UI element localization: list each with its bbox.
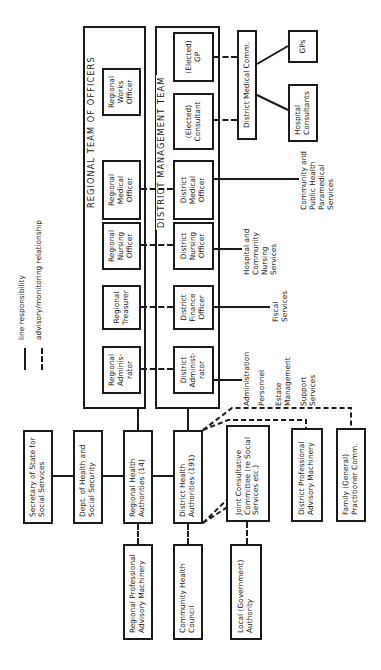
service-support-services-text: Support Services <box>299 375 317 406</box>
nursing-regional-district-link <box>141 244 173 246</box>
fiscal-service-stem <box>214 306 270 308</box>
dha-district-team-link <box>187 409 189 430</box>
legend-solid-line <box>24 348 26 370</box>
regional-nursing-officer-label: Regional Nursing Officer <box>108 226 135 266</box>
hospital-consultants-box: Hospital Consultants <box>288 84 318 142</box>
secretary-of-state-label: Secretary of State for Social Services <box>29 434 47 517</box>
joint-consultative-committee-box: Joint Consultative Committee (re Social … <box>226 425 270 522</box>
dhss-box: Dept. of Health and Social Security <box>73 430 103 524</box>
service-nursing-text: Hospital and Community Nursing Services <box>242 229 278 275</box>
district-health-authorities-label: District Health Authorities (191) <box>179 434 197 517</box>
service-support-services: Support Services <box>300 366 318 406</box>
service-fiscal-text: Fiscal Services <box>271 291 289 322</box>
regional-nursing-officer-box: Regional Nursing Officer <box>102 222 141 270</box>
district-administrator-box: District Administ- rator <box>173 346 214 394</box>
district-medical-officer-box: District Medical Officer <box>173 160 214 220</box>
district-finance-officer-label: District Finance Officer <box>180 289 207 326</box>
regional-administrator-label: Regional Adminis- rator <box>108 350 135 390</box>
service-personnel: Personnel <box>258 370 267 406</box>
joint-consultative-committee-label: Joint Consultative Committee (re Social … <box>235 429 262 515</box>
district-nursing-officer-label: District Nursing Officer <box>180 226 207 266</box>
rha-regional-team-link <box>137 409 139 430</box>
gps-box: GPs <box>288 30 318 63</box>
district-professional-advisory-label: District Professional Advisory Machinery <box>298 432 316 515</box>
district-medical-officer-label: District Medical Officer <box>180 164 207 216</box>
district-medical-committee-box: District Medical Comm. <box>237 30 257 140</box>
service-fiscal: Fiscal Services <box>272 282 290 322</box>
service-estate-management: Estate Management <box>275 356 293 406</box>
regional-medical-officer-label: Regional Medical Officer <box>108 164 135 216</box>
regional-health-authorities-label: Regional Health Authorities (14) <box>129 434 147 517</box>
regional-works-officer-box: Regional Works Officer <box>102 68 141 116</box>
district-health-authorities-box: District Health Authorities (191) <box>173 430 203 524</box>
admin-regional-district-link <box>141 368 173 370</box>
district-finance-officer-box: District Finance Officer <box>173 285 214 330</box>
secretary-dhss-link <box>53 475 73 477</box>
elected-consultant-label: (Elected) Consultant <box>185 97 203 146</box>
elected-gp-box: (Elected) GP <box>173 32 214 82</box>
dhss-rha-link <box>103 475 123 477</box>
regional-treasurer-box: Regional Treasurer <box>102 285 141 330</box>
dhss-label: Dept. of Health and Social Security <box>79 434 97 517</box>
district-medical-committee-label: District Medical Comm. <box>243 42 252 128</box>
district-professional-advisory-box: District Professional Advisory Machinery <box>291 428 323 522</box>
dha-chc-link <box>187 524 189 544</box>
regional-medical-officer-box: Regional Medical Officer <box>102 160 141 220</box>
community-health-council-label: Community Health Council <box>179 548 197 633</box>
jcc-local-authority-link <box>246 522 248 544</box>
local-authority-box: Local (Government) Authority <box>230 544 262 640</box>
service-estate-management-text: Estate Management <box>274 357 292 406</box>
gp-dmc-link <box>214 56 237 58</box>
medical-regional-district-link <box>141 188 173 190</box>
local-authority-label: Local (Government) Authority <box>237 548 255 633</box>
community-health-council-box: Community Health Council <box>173 544 203 640</box>
consultant-dmc-link <box>214 119 237 121</box>
secretary-of-state-box: Secretary of State for Social Services <box>23 430 53 524</box>
regional-professional-advisory-label: Regional Professional Advisory Machinery <box>129 548 147 633</box>
regional-administrator-box: Regional Adminis- rator <box>102 346 141 394</box>
legend-dashed-label: advisory/monitoring relationship <box>35 220 44 340</box>
finance-regional-district-link <box>141 306 173 308</box>
regional-team-title: REGIONAL TEAM OF OFFICERS <box>86 54 96 210</box>
elected-gp-label: (Elected) GP <box>185 36 203 78</box>
district-administrator-label: District Administ- rator <box>180 350 207 390</box>
service-public-health-text: Community and Public Health Paramedical … <box>299 151 335 210</box>
district-team-title: DISTRICT MANAGEMENT TEAM <box>156 75 166 230</box>
elected-consultant-box: (Elected) Consultant <box>173 93 214 150</box>
gps-label: GPs <box>299 40 308 54</box>
legend-solid-label: line responsibility <box>18 275 27 340</box>
regional-professional-advisory-box: Regional Professional Advisory Machinery <box>123 544 153 640</box>
nhs-organisation-chart: line responsibility advisory/monitoring … <box>0 0 381 670</box>
regional-treasurer-label: Regional Treasurer <box>113 289 131 326</box>
service-public-health: Community and Public Health Paramedical … <box>300 135 336 210</box>
legend-dashed-line <box>41 348 43 370</box>
service-administration: Administration <box>243 352 252 406</box>
regional-works-officer-label: Regional Works Officer <box>108 72 135 112</box>
service-nursing: Hospital and Community Nursing Services <box>243 215 279 275</box>
public-health-service-stem <box>214 178 299 180</box>
fpc-box: Family (General) Practitioner Comm. <box>336 428 366 522</box>
fpc-label: Family (General) Practitioner Comm. <box>342 432 360 515</box>
hospital-consultants-label: Hospital Consultants <box>294 88 312 135</box>
rha-dha-link <box>153 475 173 477</box>
admin-service-stem <box>214 379 242 381</box>
nursing-service-stem <box>214 248 242 250</box>
rha-rpam-link <box>137 524 139 544</box>
district-nursing-officer-box: District Nursing Officer <box>173 222 214 270</box>
regional-health-authorities-box: Regional Health Authorities (14) <box>123 430 153 524</box>
